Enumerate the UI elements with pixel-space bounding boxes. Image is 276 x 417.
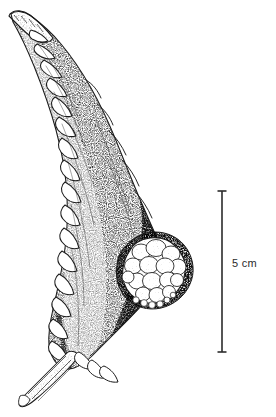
- specimen-body: [0, 0, 276, 417]
- figure-root: 5 cm: [0, 0, 276, 417]
- scale-bar: [218, 191, 227, 352]
- basal-spines: [75, 352, 118, 382]
- botanical-illustration: [0, 0, 276, 417]
- scale-bar-label: 5 cm: [232, 258, 257, 269]
- cut-stem-base: [19, 351, 79, 406]
